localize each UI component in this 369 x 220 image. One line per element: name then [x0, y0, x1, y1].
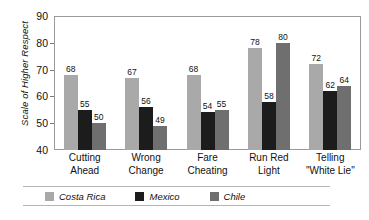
bar: 49	[153, 126, 167, 150]
bar-value-label: 67	[119, 67, 145, 77]
bar: 68	[187, 75, 201, 150]
bar-group: 726264	[309, 16, 351, 150]
x-axis-label-line: Wrong	[115, 152, 176, 165]
bar-value-label: 64	[331, 75, 357, 85]
x-axis-label-line: Light	[238, 165, 299, 178]
bar: 80	[276, 43, 290, 150]
x-axis-label: WrongChange	[115, 152, 176, 177]
bar: 50	[92, 123, 106, 150]
legend-item[interactable]: Mexico	[135, 191, 179, 202]
y-tick-label: 70	[18, 64, 48, 76]
legend-item[interactable]: Costa Rica	[45, 191, 105, 202]
x-axis-label-line: Cheating	[177, 165, 238, 178]
y-tick-label: 60	[18, 90, 48, 102]
y-tick-label: 50	[18, 117, 48, 129]
bar-value-label: 68	[181, 64, 207, 74]
bar-value-label: 49	[147, 115, 173, 125]
legend-swatch-icon	[210, 192, 219, 201]
y-tick-label: 90	[18, 10, 48, 22]
bar-value-label: 78	[242, 37, 268, 47]
legend-label: Costa Rica	[59, 191, 105, 202]
legend-item[interactable]: Chile	[210, 191, 246, 202]
bar-chart: Scale of Higher Respect 908070605040 685…	[0, 0, 369, 220]
x-axis-labels: CuttingAheadWrongChangeFareCheatingRun R…	[54, 152, 361, 182]
bar-value-label: 55	[209, 99, 235, 109]
x-axis-label: FareCheating	[177, 152, 238, 177]
bar: 55	[215, 110, 229, 150]
bar: 62	[323, 91, 337, 150]
bar: 68	[64, 75, 78, 150]
x-axis-label: CuttingAhead	[54, 152, 115, 177]
legend-swatch-icon	[45, 192, 54, 201]
bar: 72	[309, 64, 323, 150]
x-axis-label-line: "White Lie"	[300, 165, 361, 178]
bar-value-label: 50	[86, 112, 112, 122]
bar-value-label: 80	[270, 32, 296, 42]
x-axis-label-line: Run Red	[238, 152, 299, 165]
x-axis-label-line: Fare	[177, 152, 238, 165]
y-tick-label: 80	[18, 37, 48, 49]
legend-label: Mexico	[149, 191, 179, 202]
y-tick-label: 40	[18, 144, 48, 156]
x-axis-label-line: Telling	[300, 152, 361, 165]
legend-label: Chile	[224, 191, 246, 202]
bar-value-label: 72	[303, 53, 329, 63]
bar: 58	[262, 102, 276, 150]
bar: 64	[337, 86, 351, 150]
x-axis-label-line: Cutting	[54, 152, 115, 165]
x-axis-label-line: Change	[115, 165, 176, 178]
x-axis-label-line: Ahead	[54, 165, 115, 178]
bar-group: 685455	[187, 16, 229, 150]
bar-group: 675649	[125, 16, 167, 150]
bar: 54	[201, 112, 215, 150]
bar-value-label: 68	[58, 64, 84, 74]
bar-value-label: 56	[133, 96, 159, 106]
chart-legend: Costa RicaMexicoChile	[23, 186, 330, 206]
x-axis-label: Run RedLight	[238, 152, 299, 177]
bar-value-label: 55	[72, 99, 98, 109]
x-axis-label: Telling"White Lie"	[300, 152, 361, 177]
legend-swatch-icon	[135, 192, 144, 201]
bars-layer: 685550675649685455785880726264	[54, 16, 361, 150]
bar: 56	[139, 107, 153, 150]
bar-group: 685550	[64, 16, 106, 150]
bar-group: 785880	[248, 16, 290, 150]
bar: 67	[125, 78, 139, 150]
